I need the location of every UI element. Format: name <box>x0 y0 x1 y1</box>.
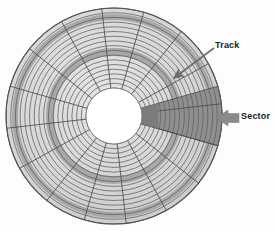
diagram-canvas: Track Sector <box>0 0 277 231</box>
disk-platter-diagram <box>0 0 277 231</box>
track-label: Track <box>215 41 240 50</box>
sector-label: Sector <box>241 112 270 121</box>
spindle-hub-hole <box>86 88 142 144</box>
